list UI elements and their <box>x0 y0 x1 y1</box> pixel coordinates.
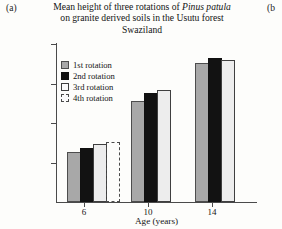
chart-title-line1-pre: Mean height of three rotations of <box>53 1 182 12</box>
legend-swatch-icon-rotation3 <box>61 83 69 91</box>
legend-swatch-icon-rotation4 <box>61 94 69 102</box>
panel-b-label: (b <box>267 3 275 13</box>
legend-swatch-icon-rotation1 <box>61 61 69 69</box>
bar-age6-rotation2 <box>80 148 94 203</box>
legend-item-rotation2: 2nd rotation <box>61 70 115 81</box>
bar-age14-rotation1 <box>195 63 209 202</box>
bar-age6-rotation1 <box>67 152 81 202</box>
legend-label-rotation1: 1st rotation <box>73 60 112 70</box>
bar-age10-rotation2 <box>144 93 158 202</box>
bar-age14-rotation2 <box>208 58 222 202</box>
legend-item-rotation4: 4th rotation <box>61 93 115 104</box>
bar-age10-rotation1 <box>131 101 145 202</box>
bar-age6-rotation3 <box>93 144 107 202</box>
legend-label-rotation4: 4th rotation <box>73 93 113 103</box>
legend-swatch-icon-rotation2 <box>61 72 69 80</box>
legend-item-rotation3: 3rd rotation <box>61 81 115 92</box>
panel-b-partial: (b Mean height (m) <box>258 0 282 229</box>
x-axis-title: Age (years) <box>56 216 257 226</box>
chart-title-line2: on granite derived soils in the Usutu fo… <box>60 12 223 23</box>
bar-age10-rotation3 <box>157 90 171 202</box>
bar-age14-rotation3 <box>221 60 235 202</box>
x-axis-line <box>56 202 257 203</box>
legend-label-rotation3: 3rd rotation <box>73 82 113 92</box>
chart-title: Mean height of three rotations of Pinus … <box>28 1 256 35</box>
chart-title-species: Pinus patula <box>182 1 231 12</box>
legend-item-rotation1: 1st rotation <box>61 59 115 70</box>
figure-panel-a: (a) Mean height of three rotations of Pi… <box>0 0 282 229</box>
chart-title-line3: Swaziland <box>122 24 162 35</box>
bar-age6-rotation4 <box>106 142 120 202</box>
legend: 1st rotation 2nd rotation 3rd rotation 4… <box>61 59 115 104</box>
legend-label-rotation2: 2nd rotation <box>73 71 115 81</box>
panel-a-label: (a) <box>6 3 17 13</box>
